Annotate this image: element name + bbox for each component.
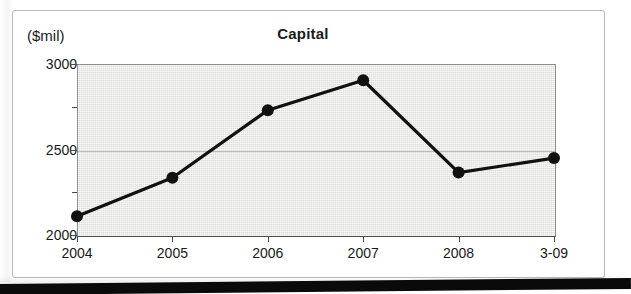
y-axis-tick-mark bbox=[70, 64, 77, 65]
x-axis-tick-mark bbox=[77, 236, 78, 242]
gridline-2500 bbox=[78, 151, 555, 152]
y-axis: 300025002000 bbox=[13, 11, 77, 279]
x-axis-tick-label: 3-09 bbox=[519, 245, 589, 261]
x-axis-tick-mark bbox=[363, 236, 364, 242]
x-axis-tick-label: 2007 bbox=[328, 245, 398, 261]
y-axis-minor-tick-mark bbox=[72, 107, 77, 108]
x-axis-tick-label: 2004 bbox=[42, 245, 112, 261]
x-axis-tick-label: 2008 bbox=[424, 245, 494, 261]
capital-line-chart: ($mil) Capital 300025002000 200420052006… bbox=[13, 11, 606, 279]
plot-area bbox=[77, 64, 556, 237]
screenshot-root: ($mil) Capital 300025002000 200420052006… bbox=[0, 0, 631, 294]
x-axis-tick-mark bbox=[459, 236, 460, 242]
y-axis-minor-tick-mark bbox=[72, 192, 77, 193]
chart-page-frame: ($mil) Capital 300025002000 200420052006… bbox=[12, 10, 605, 278]
y-axis-tick-mark bbox=[70, 150, 77, 151]
x-axis-tick-mark bbox=[554, 236, 555, 242]
chart-title: Capital bbox=[193, 25, 413, 42]
x-axis-tick-label: 2005 bbox=[137, 245, 207, 261]
x-axis-tick-label: 2006 bbox=[233, 245, 303, 261]
x-axis-tick-mark bbox=[172, 236, 173, 242]
x-axis-tick-mark bbox=[268, 236, 269, 242]
y-axis-tick-mark bbox=[70, 235, 77, 236]
